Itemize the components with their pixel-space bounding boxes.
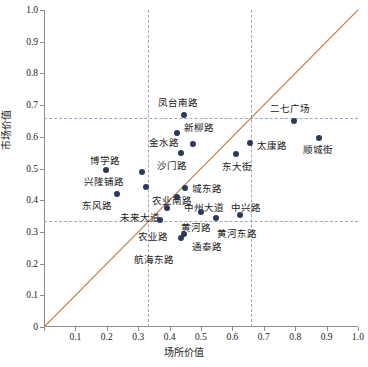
horizontal-reference-line [44, 118, 358, 119]
data-point-label: 顺城街 [303, 146, 333, 156]
data-point-label: 未来大道 [120, 214, 160, 224]
x-tick-label: 0.2 [101, 327, 113, 342]
data-point[interactable] [178, 150, 184, 156]
y-axis-line [44, 10, 45, 327]
data-point-label: 凤台南路 [158, 99, 198, 109]
data-point-label: 兴隆铺路 [84, 178, 124, 188]
vertical-reference-line [148, 10, 149, 327]
data-point-label: 黄河东路 [217, 230, 257, 240]
x-tick-label: 0.9 [321, 327, 333, 342]
x-tick-label: 0.8 [289, 327, 301, 342]
data-point-label: 博学路 [90, 157, 120, 167]
y-tick-label: 0 [33, 322, 44, 332]
plot-area: 00.10.20.30.40.50.60.70.80.91.0 0.10.20.… [44, 10, 358, 327]
data-point[interactable] [316, 135, 322, 141]
data-point[interactable] [181, 112, 187, 118]
data-point[interactable] [190, 141, 196, 147]
data-point-label: 东风路 [82, 202, 112, 212]
y-axis-title: 市场价值 [0, 110, 13, 150]
y-tick-label: 0.4 [26, 195, 44, 205]
data-point[interactable] [182, 185, 188, 191]
data-point[interactable] [139, 169, 145, 175]
data-point-label: 通泰路 [192, 243, 222, 253]
x-tick-label: 0.5 [195, 327, 207, 342]
horizontal-reference-line [44, 221, 358, 222]
data-point[interactable] [213, 215, 219, 221]
data-point-label: 东大街 [222, 163, 252, 173]
x-tick-label: 0.7 [258, 327, 270, 342]
data-point-label: 农业路 [138, 233, 168, 243]
y-tick-label: 0.2 [26, 259, 44, 269]
x-tick-label: 0.6 [226, 327, 238, 342]
data-point-label: 金水路 [149, 139, 179, 149]
data-point-label: 城东路 [192, 185, 222, 195]
data-point-label: 中兴路 [231, 204, 261, 214]
data-point[interactable] [114, 191, 120, 197]
data-point[interactable] [247, 140, 253, 146]
x-tick-label: 0.4 [164, 327, 176, 342]
data-point[interactable] [174, 194, 180, 200]
data-point-label: 航海东路 [134, 256, 174, 266]
y-tick-label: 0.9 [26, 37, 44, 47]
data-point-label: 沙门路 [157, 162, 187, 172]
data-point[interactable] [233, 151, 239, 157]
x-tick-label: 1.0 [352, 327, 364, 342]
x-tick-label: 0.1 [69, 327, 81, 342]
x-tick-mark [44, 327, 45, 331]
data-point[interactable] [164, 205, 170, 211]
y-tick-label: 0.7 [26, 100, 44, 110]
data-point[interactable] [174, 130, 180, 136]
x-tick-label: 0.3 [132, 327, 144, 342]
x-axis-title: 场所价值 [0, 344, 368, 359]
data-point[interactable] [157, 217, 163, 223]
y-tick-label: 1.0 [26, 5, 44, 15]
scatter-chart: 00.10.20.30.40.50.60.70.80.91.0 0.10.20.… [0, 0, 368, 367]
y-tick-label: 0.5 [26, 164, 44, 174]
data-point[interactable] [103, 167, 109, 173]
data-point[interactable] [178, 235, 184, 241]
data-point[interactable] [198, 209, 204, 215]
y-tick-label: 0.1 [26, 290, 44, 300]
data-point[interactable] [291, 118, 297, 124]
data-point-label: 新柳路 [184, 124, 214, 134]
y-tick-label: 0.3 [26, 227, 44, 237]
data-point-label: 二七广场 [270, 105, 310, 115]
y-tick-label: 0.6 [26, 132, 44, 142]
y-tick-label: 0.8 [26, 68, 44, 78]
data-point-label: 太康路 [257, 142, 287, 152]
identity-diagonal-line [44, 10, 358, 327]
